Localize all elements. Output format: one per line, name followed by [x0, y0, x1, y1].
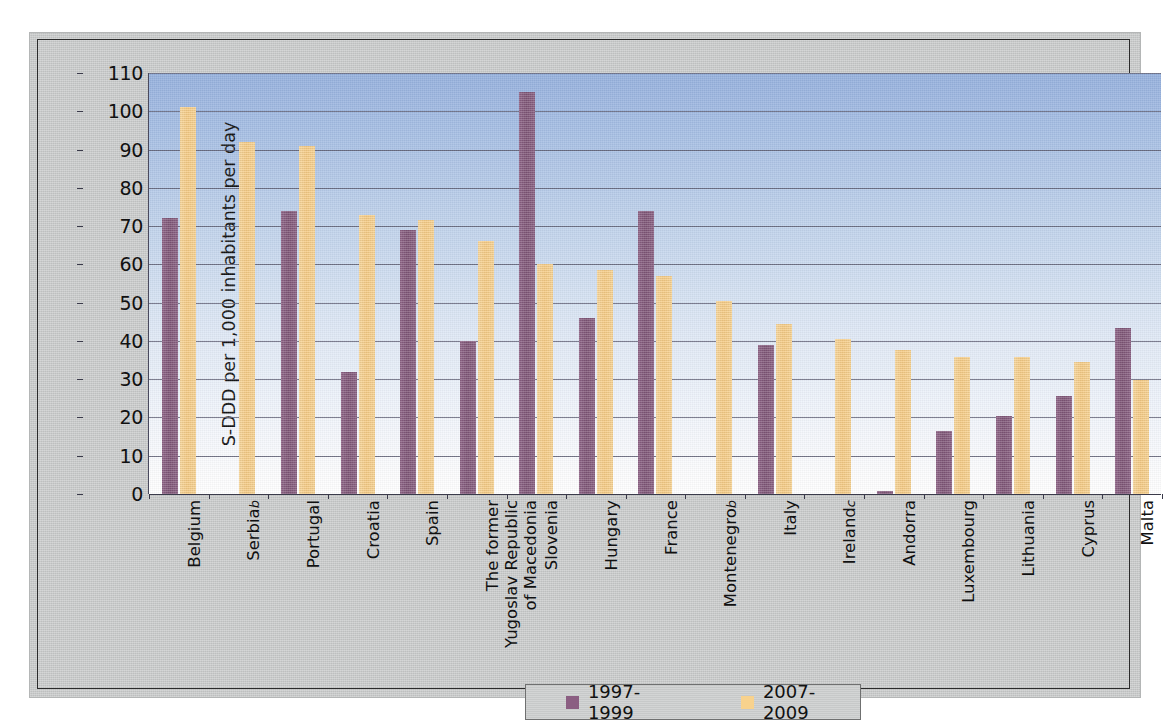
x-axis-tick-mark [626, 494, 627, 499]
legend-swatch [741, 696, 754, 709]
bar-group [209, 73, 269, 494]
bar [1056, 396, 1072, 494]
footnote-marker: b [724, 500, 739, 508]
bar [418, 220, 434, 494]
bar-group [804, 73, 864, 494]
y-axis-tick-label: 70 [83, 215, 143, 237]
bar-group [864, 73, 924, 494]
bar [519, 92, 535, 494]
footnote-marker: c [843, 500, 858, 507]
y-axis-tick-label: 80 [83, 177, 143, 199]
x-axis-tick-mark [1043, 494, 1044, 499]
x-axis-label: Malta [1138, 500, 1157, 650]
bar [776, 324, 792, 494]
legend-label: 1997-1999 [588, 681, 685, 723]
x-axis-label: Hungary [602, 500, 621, 650]
x-axis-tick-mark [209, 494, 210, 499]
y-axis-tick-mark [77, 379, 83, 380]
x-axis-label: Spain [423, 500, 442, 650]
x-axis-tick-mark [507, 494, 508, 499]
x-axis-label: Lithuania [1019, 500, 1038, 650]
gridline [149, 73, 1161, 74]
y-axis-tick-mark [77, 264, 83, 265]
gridline [149, 494, 1161, 495]
x-axis-label: Italy [781, 500, 800, 650]
bar [638, 211, 654, 494]
y-axis-tick-mark [77, 188, 83, 189]
legend-entry: 1997-1999 [566, 681, 685, 723]
bar-group [268, 73, 328, 494]
bar [299, 146, 315, 494]
x-axis-label: Andorra [900, 500, 919, 650]
bar [281, 211, 297, 494]
x-axis-label: Slovenia [542, 500, 561, 650]
bar [239, 142, 255, 494]
bar [579, 318, 595, 494]
bar [835, 339, 851, 494]
bar [954, 357, 970, 494]
plot-area: S-DDD per 1,000 inhabitants per day 0102… [148, 73, 1161, 494]
bar [656, 276, 672, 494]
bar [1115, 328, 1131, 494]
x-axis-tick-mark [983, 494, 984, 499]
x-axis-tick-mark [685, 494, 686, 499]
x-axis-tick-mark [804, 494, 805, 499]
bar [895, 350, 911, 494]
x-axis-tick-mark [328, 494, 329, 499]
y-axis-tick-mark [77, 341, 83, 342]
legend-label: 2007-2009 [763, 681, 860, 723]
x-axis-label: The formerYugoslav Republicof Macedonia [483, 500, 540, 650]
bar-group [1043, 73, 1103, 494]
x-axis-tick-mark [745, 494, 746, 499]
y-axis-tick-mark [77, 456, 83, 457]
bar [877, 491, 893, 494]
bar [716, 301, 732, 494]
chart-legend: 1997-19992007-2009 [525, 684, 861, 720]
x-axis-label: Irelandc [840, 500, 860, 650]
y-axis-tick-mark [77, 150, 83, 151]
bar [936, 431, 952, 494]
bar [400, 230, 416, 494]
x-axis-tick-mark [149, 494, 150, 499]
x-axis-label: Luxembourg [959, 500, 978, 650]
bar [597, 270, 613, 494]
bar [1074, 362, 1090, 494]
bar-group [149, 73, 209, 494]
bar [162, 218, 178, 494]
footnote-marker: b [247, 500, 262, 508]
x-axis-label: Serbiab [244, 500, 264, 650]
scanned-figure-card: S-DDD per 1,000 inhabitants per day 0102… [30, 33, 1140, 697]
bar-group [387, 73, 447, 494]
bar-group [626, 73, 686, 494]
bar-group [566, 73, 626, 494]
y-axis-tick-label: 0 [83, 483, 143, 505]
bar-group [1102, 73, 1162, 494]
bar [359, 215, 375, 494]
bar [537, 264, 553, 494]
bar [460, 341, 476, 494]
bar-group [745, 73, 805, 494]
y-axis-tick-label: 110 [83, 62, 143, 84]
chart-frame: S-DDD per 1,000 inhabitants per day 0102… [37, 39, 1130, 689]
y-axis-tick-mark [77, 73, 83, 74]
bar-group [447, 73, 507, 494]
bar-group [507, 73, 567, 494]
y-axis-tick-label: 30 [83, 368, 143, 390]
bar [341, 372, 357, 494]
x-axis-tick-mark [924, 494, 925, 499]
y-axis-tick-mark [77, 417, 83, 418]
y-axis-tick-label: 60 [83, 253, 143, 275]
x-axis-label: Montenegrob [721, 500, 741, 650]
y-axis-tick-mark [77, 303, 83, 304]
x-axis-tick-mark [864, 494, 865, 499]
legend-swatch [566, 696, 579, 709]
bar [478, 241, 494, 494]
bar [758, 345, 774, 494]
bar [996, 416, 1012, 494]
x-axis-tick-mark [387, 494, 388, 499]
y-axis-tick-label: 40 [83, 330, 143, 352]
bar [180, 107, 196, 494]
x-axis-tick-mark [268, 494, 269, 499]
y-axis-tick-label: 50 [83, 292, 143, 314]
bar-group [685, 73, 745, 494]
